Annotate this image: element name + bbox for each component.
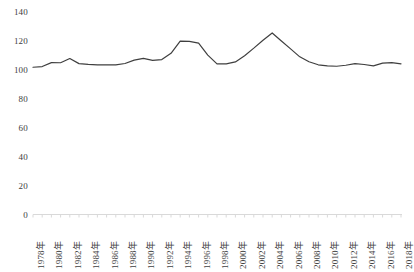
x-axis-tick-label: 2018年 bbox=[405, 241, 414, 269]
x-axis-tick-label: 1988年 bbox=[129, 241, 138, 269]
y-axis-tick-label: 120 bbox=[2, 36, 28, 46]
x-axis-tick-label: 2008年 bbox=[313, 241, 322, 269]
x-axis-tick-marks bbox=[33, 215, 401, 218]
x-axis-tick-label: 1990年 bbox=[147, 241, 156, 269]
y-axis-tick-label: 40 bbox=[2, 152, 28, 162]
y-axis-tick-label: 140 bbox=[2, 7, 28, 17]
x-axis-tick-label: 2016年 bbox=[387, 241, 396, 269]
x-axis-tick-label: 2004年 bbox=[276, 241, 285, 269]
x-axis-tick-label: 1986年 bbox=[111, 241, 120, 269]
x-axis-tick-label: 1978年 bbox=[37, 241, 46, 269]
x-axis-tick-label: 2014年 bbox=[368, 241, 377, 269]
data-series-line bbox=[33, 33, 401, 67]
y-axis-tick-label: 80 bbox=[2, 94, 28, 104]
y-axis-tick-label: 0 bbox=[2, 210, 28, 220]
x-axis-tick-label: 1996年 bbox=[203, 241, 212, 269]
y-axis-tick-label: 60 bbox=[2, 123, 28, 133]
x-axis-tick-label: 1980年 bbox=[55, 241, 64, 269]
x-axis-tick-label: 2006年 bbox=[295, 241, 304, 269]
x-axis-tick-label: 1998年 bbox=[221, 241, 230, 269]
x-axis-tick-label: 2000年 bbox=[239, 241, 248, 269]
x-axis-tick-label: 1992年 bbox=[166, 241, 175, 269]
y-axis-tick-label: 20 bbox=[2, 181, 28, 191]
x-axis-tick-label: 1984年 bbox=[92, 241, 101, 269]
x-axis-tick-label: 1994年 bbox=[184, 241, 193, 269]
x-axis-tick-label: 2002年 bbox=[258, 241, 267, 269]
x-axis-tick-label: 2012年 bbox=[350, 241, 359, 269]
x-axis-tick-label: 1982年 bbox=[74, 241, 83, 269]
x-axis-tick-label: 2010年 bbox=[331, 241, 340, 269]
y-axis-tick-label: 100 bbox=[2, 65, 28, 75]
